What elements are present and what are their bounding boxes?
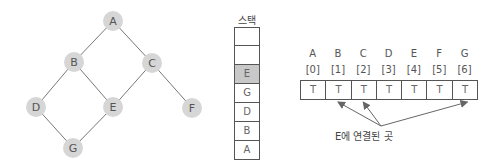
connection-arrows bbox=[0, 0, 496, 168]
arrow-caption: E에 연결된 곳 bbox=[335, 128, 393, 143]
arrow-to-index-2 bbox=[363, 102, 381, 126]
arrow-to-index-6 bbox=[381, 102, 467, 126]
arrow-to-index-1 bbox=[338, 102, 381, 126]
